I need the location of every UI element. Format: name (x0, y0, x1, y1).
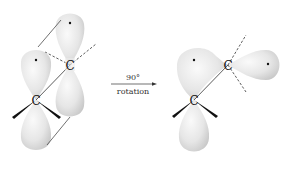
carbon-label-lower: C (31, 94, 40, 108)
front-p-orbital-top-lobe (21, 50, 51, 100)
carbon-label-upper: C (223, 59, 232, 73)
rotation-arrow: 90° rotation (111, 73, 157, 96)
electron-dot-icon (35, 59, 37, 61)
left-molecule: C C (12, 14, 96, 151)
carbon-label-upper: C (65, 59, 74, 73)
back-p-orbital-bottom-lobe (56, 65, 85, 117)
arrow-label-top: 90° (126, 73, 140, 82)
right-molecule: C C (172, 35, 280, 152)
electron-dot-icon (69, 22, 71, 24)
rotated-p-orbital-left-lobe (177, 48, 228, 100)
carbon-label-lower: C (189, 94, 198, 108)
electron-dot-icon (193, 59, 195, 61)
rotated-p-orbital-right-lobe (228, 50, 280, 80)
arrow-label-bottom: rotation (117, 87, 149, 96)
arrow-head-icon (152, 82, 157, 86)
electron-dot-icon (267, 63, 269, 65)
pi-bond-rotation-diagram: C C 90° rotation (0, 0, 288, 169)
